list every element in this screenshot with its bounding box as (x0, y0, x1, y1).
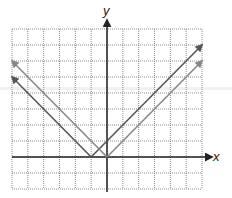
y-axis-label: y (102, 3, 111, 18)
scan-band (0, 87, 232, 90)
series-right-arm (91, 45, 202, 157)
axes (12, 20, 212, 192)
graph: y x (0, 0, 232, 198)
x-axis-label: x (212, 149, 220, 164)
